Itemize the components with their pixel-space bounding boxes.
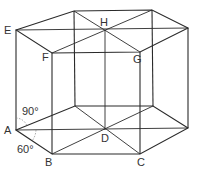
label-E: E [4,24,11,36]
angle-60-arc [32,130,36,141]
hexagonal-prism-diagram: E F G H A B C D 90° 60° [0,0,197,172]
label-G: G [133,53,142,65]
angle-90-arc [16,118,27,126]
angle-label-90: 90° [22,105,39,117]
label-H: H [100,16,108,28]
label-F: F [42,51,49,63]
label-B: B [45,156,52,168]
label-A: A [4,124,12,136]
angle-label-60: 60° [17,143,34,155]
label-D: D [101,132,109,144]
label-C: C [137,156,145,168]
